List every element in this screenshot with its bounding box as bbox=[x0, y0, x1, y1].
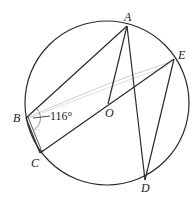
segment-BC bbox=[26, 118, 40, 153]
circle-diagram: A E B C D O 116° bbox=[0, 0, 196, 201]
angle-label: 116° bbox=[50, 109, 73, 123]
label-C: C bbox=[31, 156, 40, 170]
segment-AO bbox=[108, 26, 127, 104]
segment-ED bbox=[145, 59, 174, 180]
angle-pointer bbox=[33, 116, 50, 118]
angle-arc-B bbox=[34, 109, 40, 130]
circle bbox=[25, 21, 189, 185]
segment-AB bbox=[26, 26, 127, 118]
label-A: A bbox=[123, 10, 132, 24]
label-D: D bbox=[140, 181, 150, 195]
label-B: B bbox=[13, 111, 21, 125]
faint-arc-2 bbox=[27, 66, 168, 119]
label-O: O bbox=[105, 106, 114, 120]
label-E: E bbox=[177, 48, 186, 62]
faint-arc bbox=[27, 62, 170, 118]
segment-AD bbox=[127, 26, 145, 180]
